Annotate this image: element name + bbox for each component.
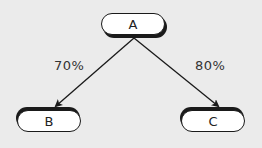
edge-a-c-label: 80% (195, 58, 225, 73)
node-a-label: A (129, 17, 138, 32)
diagram-canvas: A B C 70% 80% (0, 0, 262, 148)
edge-a-b-label: 70% (54, 58, 84, 73)
node-a[interactable]: A (101, 13, 165, 35)
node-b[interactable]: B (17, 110, 81, 132)
node-b-label: B (45, 114, 54, 129)
node-c[interactable]: C (181, 110, 245, 132)
node-c-label: C (208, 114, 217, 129)
